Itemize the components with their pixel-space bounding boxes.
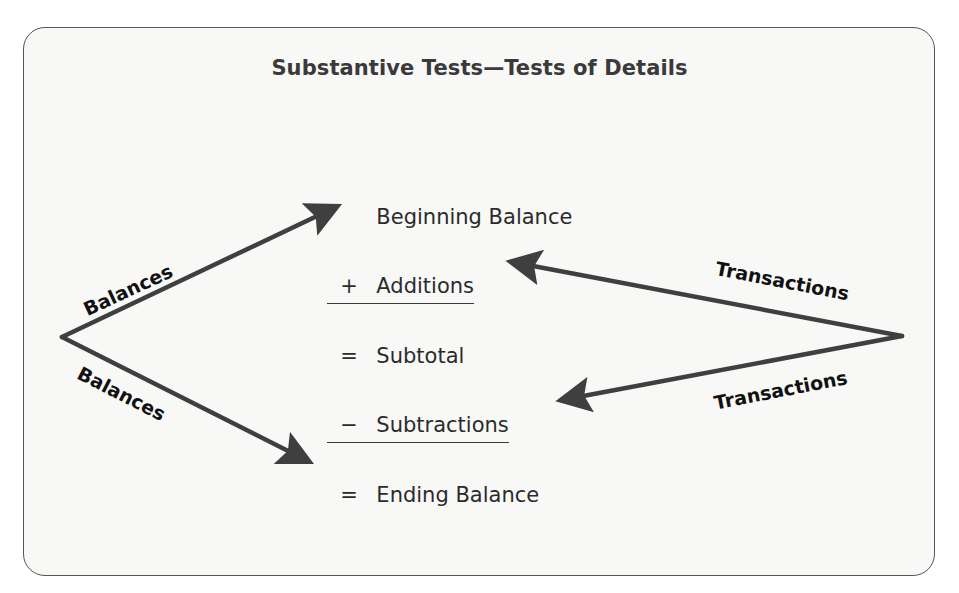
line-subtotal: =Subtotal xyxy=(327,314,464,370)
line-label: Additions xyxy=(376,274,474,298)
line-label: Beginning Balance xyxy=(376,205,572,229)
diagram-title: Substantive Tests—Tests of Details xyxy=(0,56,959,80)
line-additions: +Additions xyxy=(327,244,474,304)
line-label: Subtractions xyxy=(376,413,508,437)
clipped-previous-text xyxy=(100,0,180,4)
minus-operator: − xyxy=(340,411,376,439)
line-ending-balance: =Ending Balance xyxy=(327,453,539,509)
equals-operator: = xyxy=(340,342,376,370)
line-subtractions: −Subtractions xyxy=(327,383,509,443)
line-label: Subtotal xyxy=(376,344,464,368)
plus-operator: + xyxy=(340,272,376,300)
line-label: Ending Balance xyxy=(376,483,539,507)
line-beginning-balance: Beginning Balance xyxy=(327,175,572,231)
equals-operator: = xyxy=(340,481,376,509)
